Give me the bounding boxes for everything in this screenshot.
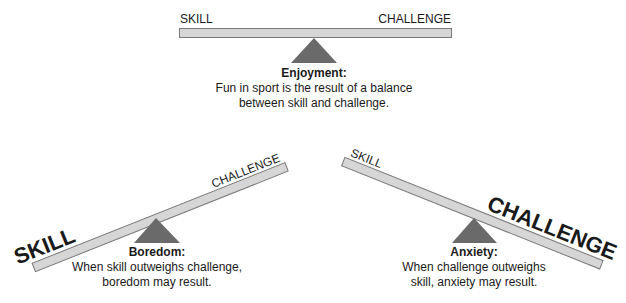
seesaw-diagram: SKILL CHALLENGE Enjoyment: Fun in sport … (0, 0, 626, 303)
balanced-fulcrum-icon (291, 38, 337, 63)
balanced-seesaw: SKILL CHALLENGE Enjoyment: Fun in sport … (180, 12, 452, 110)
anxiety-title: Anxiety: (450, 245, 497, 259)
enjoyment-line-1: Fun in sport is the result of a balance (216, 81, 413, 95)
boredom-line-1: When skill outweighs challenge, (72, 260, 242, 274)
balanced-plank (180, 29, 452, 38)
balanced-skill-label: SKILL (180, 12, 213, 26)
balanced-challenge-label: CHALLENGE (378, 12, 451, 26)
anxiety-line-1: When challenge outweighs (402, 260, 545, 274)
anxiety-line-2: skill, anxiety may result. (411, 275, 538, 289)
boredom-title: Boredom: (129, 245, 186, 259)
enjoyment-line-2: between skill and challenge. (239, 96, 389, 110)
anxiety-seesaw: SKILL CHALLENGE Anxiety: When challenge … (342, 135, 621, 289)
enjoyment-title: Enjoyment: (281, 66, 346, 80)
boredom-line-2: boredom may result. (102, 275, 211, 289)
boredom-seesaw: SKILL CHALLENGE Boredom: When skill outw… (10, 140, 288, 289)
